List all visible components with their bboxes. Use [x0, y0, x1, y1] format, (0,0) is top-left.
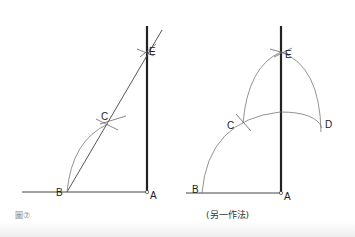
point-a-marker — [145, 190, 148, 193]
caption-alternative-method: (另一作法) — [206, 209, 249, 220]
left-construction: E C B A — [22, 26, 162, 201]
label-b-right: B — [192, 184, 199, 195]
point-a-marker-right — [279, 191, 282, 194]
label-b-left: B — [56, 187, 63, 198]
geometry-diagram: E C B A E C D B A (另一作法) 圖⑦ — [0, 0, 355, 237]
figure-label: 圖⑦ — [15, 211, 30, 220]
arc-bcd — [202, 112, 322, 193]
right-construction: E C D B A (另一作法) — [186, 26, 332, 220]
label-c-left: C — [101, 111, 108, 122]
label-a-right: A — [284, 191, 291, 202]
label-a-left: A — [150, 190, 157, 201]
label-c-right: C — [227, 120, 234, 131]
label-d-right: D — [325, 119, 332, 130]
arc-de — [281, 52, 321, 132]
label-e-right: E — [285, 49, 292, 60]
label-e-left: E — [149, 46, 156, 57]
